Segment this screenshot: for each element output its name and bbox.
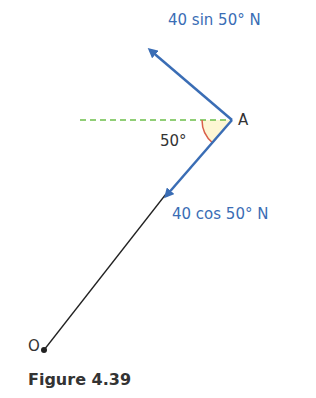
point-o-dot xyxy=(41,347,47,353)
label-point-o: O xyxy=(28,337,40,355)
force-diagram: 40 sin 50° N A 50° 40 cos 50° N O Figure… xyxy=(0,0,316,398)
label-angle: 50° xyxy=(160,132,187,150)
force-arrow-sin xyxy=(150,50,232,120)
label-point-a: A xyxy=(238,111,249,129)
label-force-cos: 40 cos 50° N xyxy=(172,205,268,223)
label-force-sin: 40 sin 50° N xyxy=(168,11,261,29)
rod-line xyxy=(44,194,166,350)
figure-caption: Figure 4.39 xyxy=(28,370,131,389)
